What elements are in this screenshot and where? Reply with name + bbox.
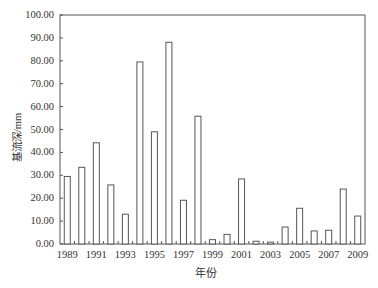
bar-1993 [122, 214, 128, 244]
bar-1999 [210, 240, 216, 244]
bar-2005 [297, 208, 303, 244]
x-axis-label: 年份 [195, 264, 217, 280]
bar-1991 [93, 143, 99, 244]
y-tick-label: 0.00 [4, 238, 54, 250]
bar-1995 [151, 132, 157, 244]
bar-1994 [137, 62, 143, 244]
y-axis-label: 基流深/mm [9, 108, 24, 168]
bar-1989 [64, 176, 70, 244]
bar-2000 [224, 234, 230, 244]
bar-2004 [282, 227, 288, 244]
bar-2008 [340, 189, 346, 244]
bar-2001 [239, 179, 245, 244]
bar-1998 [195, 116, 201, 244]
plot-frame [60, 15, 365, 244]
x-tick-label: 2009 [341, 249, 375, 261]
bar-2006 [311, 231, 317, 244]
bar-chart [0, 0, 378, 288]
bar-1996 [166, 42, 172, 244]
y-tick-label: 70.00 [4, 78, 54, 90]
bar-2007 [326, 230, 332, 244]
y-tick-label: 20.00 [4, 192, 54, 204]
bars [64, 42, 360, 244]
y-tick-label: 100.00 [4, 9, 54, 21]
bar-1997 [180, 200, 186, 244]
bar-2003 [268, 242, 274, 244]
y-tick-label: 80.00 [4, 55, 54, 67]
y-tick-label: 10.00 [4, 215, 54, 227]
y-tick-label: 30.00 [4, 169, 54, 181]
bar-1990 [79, 167, 85, 244]
bar-1992 [108, 185, 114, 244]
y-tick-label: 90.00 [4, 32, 54, 44]
bar-2009 [355, 216, 361, 244]
bar-2002 [253, 241, 259, 244]
